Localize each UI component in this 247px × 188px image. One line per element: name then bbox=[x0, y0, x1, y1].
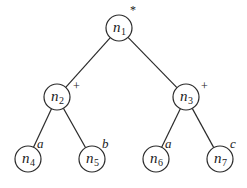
node-label: a bbox=[37, 136, 44, 151]
node-name: n bbox=[113, 19, 121, 35]
node-label: a bbox=[165, 136, 172, 151]
edge-n1-n3 bbox=[128, 37, 177, 87]
node-name: n bbox=[214, 150, 222, 166]
node-n1: n1* bbox=[106, 3, 136, 41]
node-name: n bbox=[180, 88, 188, 104]
node-subscript: 5 bbox=[94, 157, 99, 168]
node-label: c bbox=[230, 136, 236, 151]
node-subscript: 2 bbox=[59, 95, 64, 106]
node-n4: n4a bbox=[15, 136, 44, 172]
node-subscript: 7 bbox=[222, 157, 227, 168]
expression-tree-diagram: n1*n2+n3+n4an5bn6an7c bbox=[0, 0, 247, 188]
node-label: + bbox=[73, 79, 80, 93]
node-name: n bbox=[51, 88, 59, 104]
node-label: * bbox=[130, 3, 136, 17]
node-subscript: 4 bbox=[30, 157, 35, 168]
node-name: n bbox=[22, 150, 30, 166]
node-n7: n7c bbox=[207, 136, 236, 172]
node-subscript: 3 bbox=[188, 95, 193, 106]
node-subscript: 1 bbox=[121, 26, 126, 37]
node-n3: n3+ bbox=[173, 79, 208, 110]
node-label: b bbox=[102, 136, 109, 151]
node-name: n bbox=[150, 150, 158, 166]
edge-n2-n5 bbox=[63, 108, 85, 147]
node-n5: n5b bbox=[79, 136, 109, 172]
node-subscript: 6 bbox=[158, 157, 163, 168]
tree-nodes: n1*n2+n3+n4an5bn6an7c bbox=[15, 3, 236, 172]
node-n6: n6a bbox=[143, 136, 172, 172]
node-label: + bbox=[201, 79, 208, 93]
node-n2: n2+ bbox=[44, 79, 80, 110]
edge-n3-n7 bbox=[192, 108, 213, 147]
node-name: n bbox=[86, 150, 94, 166]
